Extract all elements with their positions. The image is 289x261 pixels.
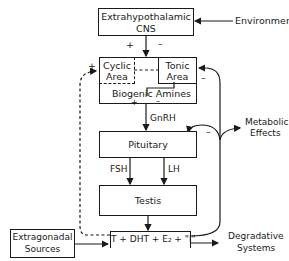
amines-minus: – (156, 96, 160, 107)
pituitary-label: Pituitary (100, 139, 196, 150)
environment-label: Environment (235, 15, 289, 26)
tonic-label-2: Area (159, 71, 196, 82)
hormones-label: T + DHT + E₂ + "I" (111, 234, 190, 245)
biogenic-amines-label: Biogenic Amines (112, 88, 191, 99)
cyclic-area-box: Cyclic Area (99, 57, 135, 84)
lh-label: LH (168, 164, 180, 175)
cyclic-label-2: Area (100, 71, 134, 82)
minus-sign: – (158, 38, 163, 49)
degradative-label-2: Systems (237, 243, 275, 254)
testis-box: Testis (99, 185, 197, 216)
metabolic-label-1: Metabolic (245, 117, 289, 128)
extragonadal-box: Extragonadal Sources (10, 229, 75, 258)
cyclic-label-1: Cyclic (100, 60, 134, 71)
right-feedback-minus: – (201, 72, 206, 83)
gnrh-label: GnRH (150, 113, 176, 124)
metabolic-label-2: Effects (250, 128, 281, 139)
extragonadal-label-1: Extragonadal (11, 232, 74, 243)
testis-label: Testis (100, 195, 196, 206)
plus-sign: + (126, 39, 134, 50)
extragonadal-label-2: Sources (11, 244, 74, 255)
degradative-label-1: Degradative (228, 231, 284, 242)
pituitary-box: Pituitary (99, 131, 197, 158)
left-feedback-plus: + (88, 60, 96, 71)
fsh-label: FSH (110, 164, 128, 175)
amines-plus: + (131, 97, 138, 108)
tonic-label-1: Tonic (159, 60, 196, 71)
tonic-area-box: Tonic Area (158, 57, 197, 84)
cns-label-2: CNS (99, 23, 193, 34)
pituitary-feedback-minus: – (206, 126, 211, 137)
hormones-box: T + DHT + E₂ + "I" (110, 231, 191, 248)
cns-label-1: Extrahypothalamic (99, 11, 193, 22)
cns-box: Extrahypothalamic CNS (98, 8, 194, 36)
